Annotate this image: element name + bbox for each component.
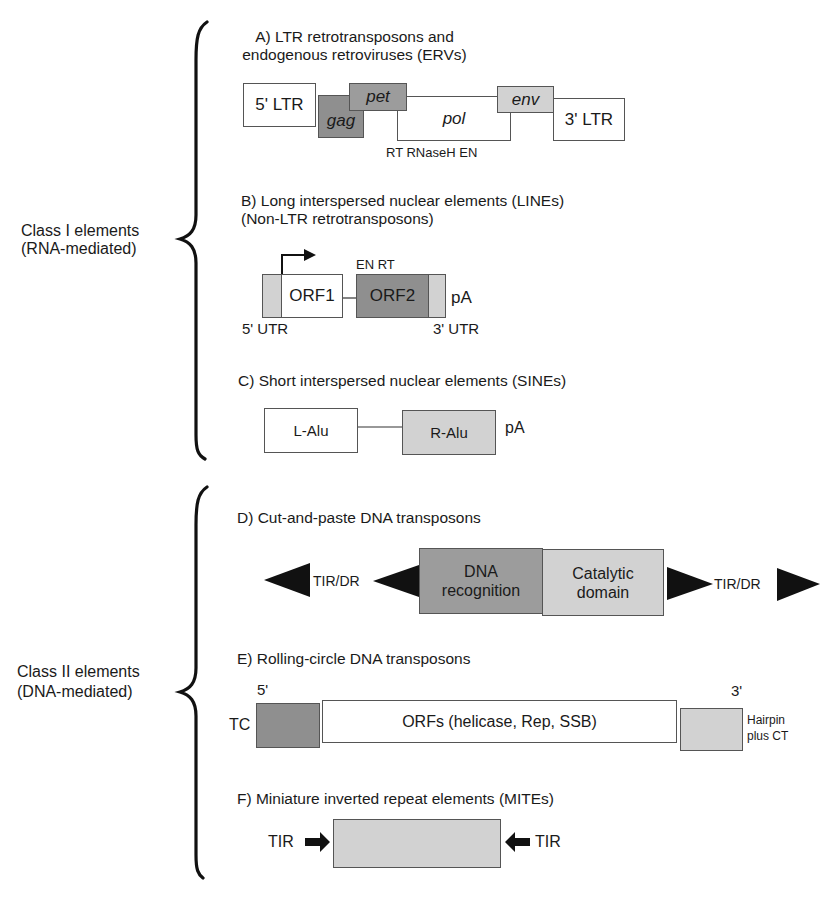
class-ii-label-line1: Class II elements [17, 662, 140, 682]
tir-left-inner-triangle-icon [373, 565, 419, 597]
five-prime-label: 5' [257, 681, 268, 698]
catalytic-domain-box: Catalytic domain [542, 549, 664, 616]
section-f-title: F) Miniature inverted repeat elements (M… [237, 790, 554, 808]
section-d-title: D) Cut-and-paste DNA transposons [237, 509, 481, 527]
tir-left-arrow-icon [305, 832, 330, 852]
mite-tir-left-label: TIR [268, 833, 294, 850]
tir-right-arrow-icon [505, 832, 530, 852]
class-i-label-line2: (RNA-mediated) [21, 240, 139, 258]
class-ii-label-line2: (DNA-mediated) [17, 682, 140, 702]
tir-dr-right-label: TIR/DR [714, 576, 761, 593]
section-a-title-line2: endogenous retroviruses (ERVs) [242, 46, 467, 64]
section-c-title: C) Short interspersed nuclear elements (… [238, 372, 566, 390]
class-i-label-line1: Class I elements [21, 222, 139, 240]
catalytic-domain-line1: Catalytic [572, 564, 633, 583]
l-alu-label: L-Alu [293, 422, 328, 439]
ltr5-label: 5' LTR [255, 95, 303, 115]
class-i-brace [180, 22, 207, 459]
ltr5-box: 5' LTR [243, 83, 316, 127]
orfs-box: ORFs (helicase, Rep, SSB) [322, 700, 677, 743]
section-e-title: E) Rolling-circle DNA transposons [237, 650, 470, 668]
pol-box: pol [397, 96, 511, 141]
tir-right-outer-triangle-icon [777, 568, 820, 601]
line-polya-label: pA [451, 289, 472, 306]
hairpin-end-box [680, 708, 743, 751]
tir-right-inner-triangle-icon [667, 567, 713, 600]
utr5-box [262, 274, 282, 318]
orf1-box: ORF1 [281, 274, 343, 318]
sine-polya-label: pA [505, 419, 525, 436]
hairpin-label: Hairpin plus CT [747, 712, 788, 744]
orf1-label: ORF1 [289, 286, 334, 306]
l-alu-box: L-Alu [264, 408, 358, 453]
pol-label: pol [443, 109, 466, 129]
transcription-start-arrow-icon [282, 255, 305, 274]
ltr3-box: 3' LTR [553, 98, 625, 141]
utr3-label: 3' UTR [433, 320, 479, 337]
env-box: env [497, 86, 554, 113]
r-alu-label: R-Alu [430, 424, 468, 441]
r-alu-box: R-Alu [402, 410, 496, 455]
pol-domains-label: RT RNaseH EN [386, 144, 477, 161]
dna-recognition-line2: recognition [442, 581, 520, 600]
pet-label: pet [366, 87, 390, 107]
section-b-title: B) Long interspersed nuclear elements (L… [241, 192, 564, 228]
mite-tir-right-label: TIR [535, 833, 561, 850]
hairpin-label-line2: plus CT [747, 728, 788, 744]
section-a-title: A) LTR retrotransposons and endogenous r… [242, 28, 467, 64]
class-ii-brace [180, 487, 207, 878]
three-prime-label: 3' [731, 682, 742, 699]
dna-recognition-line1: DNA [464, 562, 498, 581]
hairpin-label-line1: Hairpin [747, 712, 788, 728]
gag-label: gag [327, 111, 355, 131]
tc-end-box [256, 703, 320, 748]
orfs-label: ORFs (helicase, Rep, SSB) [402, 713, 597, 731]
class-i-label: Class I elements (RNA-mediated) [21, 222, 139, 258]
orf2-domains-label: EN RT [356, 256, 395, 273]
env-label: env [512, 90, 539, 110]
orf2-label: ORF2 [370, 286, 415, 306]
mite-box [333, 819, 501, 868]
arrowhead-icon [304, 249, 316, 261]
tir-dr-left-label: TIR/DR [313, 573, 360, 590]
section-b-title-line2: (Non-LTR retrotransposons) [241, 210, 564, 228]
section-b-title-line1: B) Long interspersed nuclear elements (L… [241, 192, 564, 210]
dna-recognition-box: DNA recognition [419, 548, 543, 614]
pet-box: pet [349, 83, 407, 111]
orf2-box: ORF2 [356, 274, 429, 318]
class-ii-label: Class II elements (DNA-mediated) [17, 662, 140, 702]
tir-left-outer-triangle-icon [264, 563, 310, 597]
section-a-title-line1: A) LTR retrotransposons and [242, 28, 467, 46]
tc-label: TC [229, 716, 250, 733]
utr3-box [428, 274, 446, 318]
catalytic-domain-line2: domain [577, 583, 629, 602]
ltr3-label: 3' LTR [565, 110, 613, 130]
utr5-label: 5' UTR [242, 320, 288, 337]
